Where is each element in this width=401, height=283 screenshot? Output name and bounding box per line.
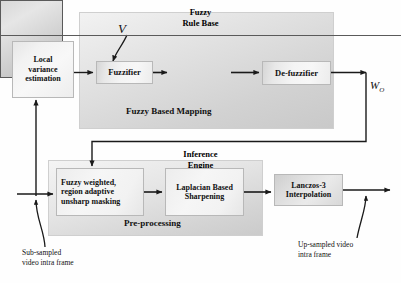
fuzzy-weighted-line2: region adaptive [61, 187, 114, 196]
diagram-canvas: Local variance estimation Fuzzifier Fuzz… [0, 0, 401, 283]
lanczos-interpolation-box[interactable]: Lanczos-3 Interpolation [274, 174, 343, 206]
sub-sampled-line2: video intra frame [22, 258, 74, 268]
fuzzy-rule-base-line1: Fuzzy [190, 7, 212, 18]
weight-symbol: W [370, 79, 379, 91]
fuzzy-based-mapping-label: Fuzzy Based Mapping [126, 106, 212, 116]
fuzzy-rule-inference-box: Fuzzy Rule Base Inference Engine [0, 0, 63, 78]
lanczos-line1: Lanczos-3 [291, 181, 326, 190]
up-sampled-line1: Up-sampled video [298, 240, 353, 250]
variance-signal-label: V [118, 20, 126, 38]
up-sampled-output-annotation: Up-sampled video intra frame [298, 240, 353, 260]
de-fuzzifier-box[interactable]: De-fuzzifier [262, 61, 331, 85]
pre-processing-label: Pre-processing [124, 218, 181, 228]
up-sampled-line2: intra frame [298, 250, 353, 260]
sub-sampled-line1: Sub-sampled [22, 248, 74, 258]
laplacian-line2: Sharpening [185, 192, 225, 201]
laplacian-based-sharpening-box[interactable]: Laplacian Based Sharpening [165, 168, 244, 216]
fuzzy-rule-base-box[interactable]: Fuzzy Rule Base [0, 0, 401, 36]
lanczos-line2: Interpolation [286, 190, 331, 199]
weight-signal-label: WO [370, 78, 384, 96]
fuzzy-weighted-line1: Fuzzy weighted, [61, 178, 116, 187]
weight-subscript: O [379, 86, 384, 94]
fuzzy-weighted-unsharp-masking-box[interactable]: Fuzzy weighted, region adaptive unsharp … [56, 168, 144, 216]
fuzzy-weighted-line3: unsharp masking [61, 197, 120, 206]
fuzzy-rule-base-line2: Rule Base [182, 18, 218, 29]
de-fuzzifier-label: De-fuzzifier [275, 68, 318, 78]
inference-engine-line1: Inference [183, 149, 217, 160]
laplacian-line1: Laplacian Based [176, 183, 233, 192]
sub-sampled-input-annotation: Sub-sampled video intra frame [22, 248, 74, 268]
